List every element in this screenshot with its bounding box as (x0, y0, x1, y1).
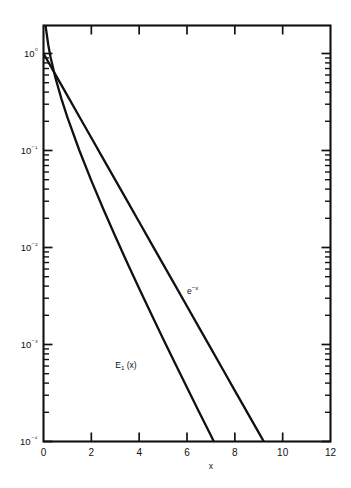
y-tick-label: 10⁻³ (21, 338, 39, 350)
x-axis-tick-labels: 024681012 (41, 447, 337, 458)
y-axis-ticks (44, 54, 331, 442)
x-tick-label: 12 (325, 447, 337, 458)
y-tick-label: 10⁻⁴ (20, 435, 38, 447)
semilog-plot: 10⁰10⁻¹10⁻²10⁻³10⁻⁴ 024681012 e−xE1 (x) … (0, 0, 351, 488)
y-tick-label: 10⁰ (24, 47, 38, 59)
y-tick-label: 10⁻² (21, 241, 39, 253)
figure-container: 10⁰10⁻¹10⁻²10⁻³10⁻⁴ 024681012 e−xE1 (x) … (0, 0, 351, 488)
exp-curve-label: e−x (187, 284, 199, 296)
e1-curve-label: E1 (x) (115, 360, 137, 372)
y-tick-label: 10⁻¹ (21, 144, 39, 156)
x-tick-label: 4 (136, 447, 142, 458)
plot-border (44, 26, 331, 442)
x-tick-label: 2 (89, 447, 95, 458)
plot-frame (44, 26, 331, 442)
data-curves (44, 8, 264, 442)
x-tick-label: 10 (277, 447, 289, 458)
y-axis-tick-labels: 10⁰10⁻¹10⁻²10⁻³10⁻⁴ (20, 47, 38, 447)
x-axis-ticks (91, 26, 282, 442)
x-tick-label: 6 (184, 447, 190, 458)
curve-exp-minus-x (44, 54, 264, 442)
x-tick-label: 8 (232, 447, 238, 458)
x-axis-title: x (209, 461, 214, 471)
x-tick-label: 0 (41, 447, 47, 458)
curve-e1-of-x (44, 8, 214, 442)
x-axis-title-text: x (209, 461, 214, 471)
